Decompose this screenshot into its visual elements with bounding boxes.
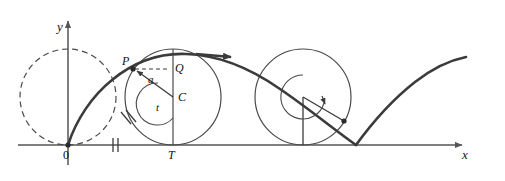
radius-CP: [137, 71, 173, 97]
point-t-label: T: [168, 149, 175, 161]
point-q-label: Q: [175, 62, 184, 74]
arc-length-tick-marks: [121, 110, 136, 124]
axis-group: [18, 21, 462, 165]
radius-a-label: a: [148, 74, 154, 85]
x-axis-label: x: [462, 148, 468, 161]
cycloid-curve-arch-1: [68, 54, 356, 145]
second-circle-angle-arrow: [322, 96, 325, 104]
point-p-marker: [130, 66, 135, 71]
angle-t-label: t: [156, 102, 159, 113]
origin-label: 0: [63, 149, 69, 161]
y-axis-label: y: [57, 20, 63, 33]
point-o-marker: [65, 142, 70, 147]
angle-t-arc: [136, 83, 173, 125]
cycloid-figure: y x 0 P Q a C t T: [0, 0, 505, 181]
second-contact-point-marker: [341, 118, 346, 123]
cycloid-curve-arch-2: [356, 57, 466, 145]
point-p-label: P: [122, 55, 129, 67]
center-c-label: C: [178, 91, 186, 103]
figure-canvas: [0, 0, 505, 181]
